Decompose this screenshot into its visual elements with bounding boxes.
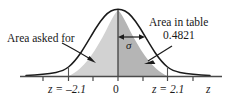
- arrow-area-in-table: [144, 46, 172, 64]
- normal-distribution-figure: Area asked for Area in table 0.4821 σ z …: [0, 0, 237, 99]
- axis-tick-label-zero: 0: [113, 83, 119, 95]
- annotation-area-in-table: Area in table: [149, 17, 208, 29]
- axis-tick-label-positive: z = 2.1: [152, 83, 184, 95]
- shaded-area-asked-for: [69, 10, 119, 76]
- axis-tick-label-negative: z = –2.1: [48, 83, 86, 95]
- annotation-area-asked-for: Area asked for: [7, 33, 75, 45]
- axis-label-z: z: [206, 83, 210, 95]
- arrow-area-asked-for: [62, 43, 96, 63]
- annotation-area-value: 0.4821: [163, 30, 195, 42]
- annotation-sigma-symbol: σ: [126, 40, 131, 51]
